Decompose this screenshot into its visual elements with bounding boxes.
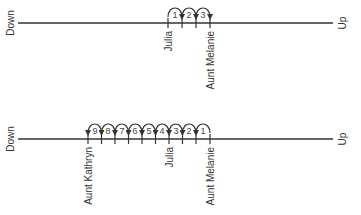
hop-number: 3 [200,10,205,20]
aunt-kathryn-label: Aunt Kathryn [83,147,94,205]
aunt-melanie-label: Aunt Melanie [205,147,216,206]
number-line-top: Down Up 1 2 3 Julia Aunt Melanie [5,8,348,89]
number-line-bottom: Down Up 9 8 7 6 5 [5,124,348,205]
down-label: Down [5,10,16,36]
hop-number: 4 [159,126,164,136]
hop-number: 1 [172,10,177,20]
julia-label: Julia [163,31,174,52]
hop-number: 6 [132,126,137,136]
hop-number: 2 [186,126,191,136]
julia-label: Julia [164,147,175,168]
hop-number: 1 [200,126,205,136]
aunt-melanie-label: Aunt Melanie [205,31,216,90]
hop-number: 3 [173,126,178,136]
hop-number: 2 [186,10,191,20]
down-label: Down [5,126,16,152]
up-label: Up [337,132,348,145]
hop-number: 5 [146,126,151,136]
hop-number: 7 [119,126,124,136]
hop-number: 8 [105,126,110,136]
hop-number: 9 [92,126,97,136]
up-label: Up [337,16,348,29]
